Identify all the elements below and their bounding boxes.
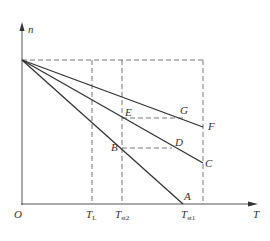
point-label-g: G — [180, 104, 188, 116]
characteristic-lines — [22, 60, 203, 204]
guide-lines — [22, 60, 203, 204]
characteristic-line-a — [22, 60, 183, 204]
tick-label-tl: TL — [86, 208, 96, 222]
y-axis-arrow-icon — [20, 22, 25, 31]
point-label-a: A — [183, 190, 191, 202]
point-label-f: F — [207, 120, 215, 132]
point-label-d: D — [174, 136, 183, 148]
point-label-e: E — [124, 106, 132, 118]
x-axis-arrow-icon — [248, 202, 258, 207]
point-label-b: B — [111, 141, 118, 153]
n-t-diagram: n T O TL Tst2 Tst1 A B C D E F G — [0, 0, 270, 241]
tick-label-tst2: Tst2 — [115, 208, 130, 222]
characteristic-line-f — [22, 60, 203, 127]
tick-label-tst1: Tst1 — [181, 208, 196, 222]
y-axis-label: n — [28, 23, 34, 35]
x-axis-label: T — [253, 208, 260, 220]
point-label-c: C — [205, 157, 213, 169]
axes — [20, 22, 259, 207]
origin-label: O — [14, 208, 22, 220]
